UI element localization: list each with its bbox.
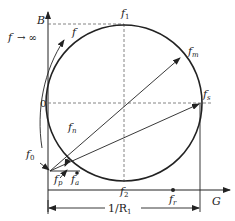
fp-label: fp (53, 173, 63, 187)
admittance-circle-diagram: B G 0 f → ∞ f f1 fm fs fn f0 fp fa fr f2… (0, 0, 235, 221)
fn-arrow (65, 157, 69, 166)
fr-label: fr (168, 193, 177, 207)
f2-label: f2 (119, 185, 129, 199)
fr-point (171, 188, 175, 192)
diagram-canvas: B G 0 f → ∞ f f1 fm fs fn f0 fp fa fr f2… (0, 0, 235, 221)
vector-fm (50, 58, 180, 171)
fm-label: fm (187, 45, 199, 59)
f-direction-label: f (71, 26, 78, 39)
fa-label: fa (70, 173, 79, 187)
infinity-arrow-label: → ∞ (17, 32, 37, 43)
origin-label: 0 (40, 98, 46, 109)
g-axis-label: G (212, 195, 221, 208)
f0-label: f0 (25, 148, 35, 162)
fs-label: fs (202, 88, 211, 102)
f1-label: f1 (120, 7, 130, 21)
fa-point (75, 171, 79, 175)
dimension-label: 1/R1 (108, 202, 131, 216)
fn-label: fn (67, 121, 77, 135)
f-infinity-label: f (7, 31, 14, 44)
b-axis-label: B (36, 14, 45, 27)
